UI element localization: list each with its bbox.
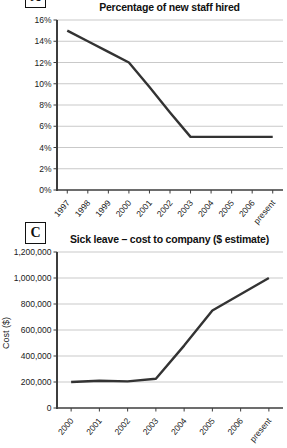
y-tick-label: 600,000 bbox=[21, 325, 52, 335]
y-tick-label: 2% bbox=[39, 164, 52, 174]
x-tick-label: 2002 bbox=[112, 416, 132, 437]
x-tick-label: 1997 bbox=[52, 198, 72, 219]
y-tick-label: 8% bbox=[39, 100, 52, 110]
chart-a-plot: 0%2%4%6%8%10%12%14%16%199719981999200020… bbox=[34, 15, 283, 226]
x-tick-label: 2002 bbox=[155, 198, 175, 219]
y-tick-label: 0% bbox=[39, 185, 52, 195]
x-tick-label: 2004 bbox=[196, 198, 216, 219]
y-tick-label: 0 bbox=[47, 403, 52, 413]
x-tick-label: 1999 bbox=[93, 198, 113, 219]
y-tick-label: 200,000 bbox=[21, 377, 52, 387]
x-tick-label: 1998 bbox=[73, 198, 93, 219]
x-tick-label: present bbox=[248, 415, 274, 444]
y-tick-label: 800,000 bbox=[21, 299, 52, 309]
x-tick-label: 2006 bbox=[225, 416, 245, 437]
x-tick-label: 2004 bbox=[169, 416, 189, 437]
y-tick-label: 1,000,000 bbox=[14, 273, 52, 283]
x-tick-label: present bbox=[251, 197, 277, 226]
x-tick-label: 2001 bbox=[134, 198, 154, 219]
y-tick-label: 10% bbox=[34, 79, 51, 89]
x-tick-label: 2005 bbox=[197, 416, 217, 437]
y-tick-label: 1,200,000 bbox=[14, 247, 52, 257]
x-tick-label: 2003 bbox=[175, 198, 195, 219]
y-tick-label: 6% bbox=[39, 121, 52, 131]
chart-c-plot: 0200,000400,000600,000800,0001,000,0001,… bbox=[14, 247, 283, 444]
y-tick-label: 4% bbox=[39, 143, 52, 153]
x-tick-label: 2000 bbox=[114, 198, 134, 219]
x-tick-label: 2003 bbox=[141, 416, 161, 437]
y-tick-label: 16% bbox=[34, 15, 51, 25]
x-tick-label: 2000 bbox=[56, 416, 76, 437]
y-tick-label: 14% bbox=[34, 36, 51, 46]
y-tick-label: 12% bbox=[34, 58, 51, 68]
y-tick-label: 400,000 bbox=[21, 351, 52, 361]
x-tick-label: 2005 bbox=[216, 198, 236, 219]
x-tick-label: 2001 bbox=[84, 416, 104, 437]
charts-canvas: 0%2%4%6%8%10%12%14%16%199719981999200020… bbox=[0, 0, 287, 448]
two-line-charts-page: A Percentage of new staff hired C Sick l… bbox=[0, 0, 287, 448]
